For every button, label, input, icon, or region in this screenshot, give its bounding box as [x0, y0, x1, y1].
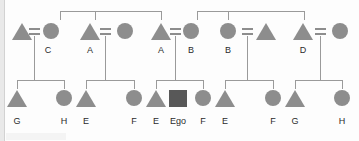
- scan-artifact: [6, 133, 66, 140]
- person-symbol-female: [332, 23, 348, 39]
- sibling-bar-3: [156, 80, 204, 81]
- person-label-E2: E: [146, 116, 166, 126]
- descent-line-3: [175, 36, 176, 80]
- top-sibling-bar-1: [60, 11, 162, 12]
- descent-line-1: [34, 36, 35, 80]
- person-symbol-female: [220, 23, 236, 39]
- sibling-drop-2b: [134, 80, 135, 89]
- person-label-H1: H: [54, 116, 74, 126]
- person-symbol-female: [126, 90, 142, 106]
- person-symbol-female: [117, 23, 133, 39]
- marriage-equals-1: [29, 28, 40, 35]
- marriage-equals-4: [242, 28, 253, 35]
- person-symbol-female: [43, 23, 59, 39]
- person-label-A1: A: [80, 45, 100, 55]
- descent-line-5: [320, 36, 321, 80]
- person-symbol-male: [215, 90, 235, 107]
- sibling-drop-5b: [342, 80, 343, 89]
- person-symbol-male: [146, 90, 166, 107]
- page-edge-strip: [0, 0, 5, 141]
- person-label-A2: A: [151, 45, 171, 55]
- marriage-equals-3: [170, 28, 181, 35]
- person-label-F3: F: [263, 116, 283, 126]
- person-label-E3: E: [215, 116, 235, 126]
- person-symbol-female: [183, 23, 199, 39]
- person-symbol-female: [265, 90, 281, 106]
- person-symbol-male: [76, 90, 96, 107]
- sibling-drop-2a: [86, 80, 87, 89]
- sibling-drop-1a: [17, 80, 18, 89]
- sibling-bar-2: [86, 80, 135, 81]
- person-label-E1: E: [76, 116, 96, 126]
- top-sibling-drop-1b: [95, 11, 96, 20]
- sibling-drop-3a: [156, 80, 157, 89]
- top-sibling-bar-2: [197, 11, 305, 12]
- top-sibling-drop-1c: [161, 11, 162, 20]
- marriage-equals-2: [100, 28, 111, 35]
- sibling-drop-5a: [295, 80, 296, 89]
- person-symbol-female: [195, 90, 211, 106]
- person-symbol-male: [151, 23, 171, 40]
- person-label-F2: F: [193, 116, 213, 126]
- person-label-C: C: [38, 45, 58, 55]
- sibling-bar-1: [17, 80, 65, 81]
- person-symbol-male: [293, 23, 313, 40]
- top-sibling-drop-1a: [60, 11, 61, 20]
- person-symbol-male: [256, 23, 276, 40]
- sibling-drop-3b: [203, 80, 204, 89]
- person-symbol-male: [7, 90, 27, 107]
- pedigree-diagram: C A A B B D G H E F E Ego F E F G H: [0, 0, 359, 141]
- descent-line-2: [105, 36, 106, 80]
- person-label-B2: B: [218, 45, 238, 55]
- person-symbol-male: [285, 90, 305, 107]
- person-label-B1: B: [181, 45, 201, 55]
- top-sibling-drop-2a: [197, 11, 198, 20]
- person-symbol-female: [334, 90, 350, 106]
- sibling-drop-1b: [64, 80, 65, 89]
- descent-line-4: [247, 36, 248, 80]
- person-symbol-male: [80, 23, 100, 40]
- sibling-drop-4b: [273, 80, 274, 89]
- sibling-bar-5: [295, 80, 343, 81]
- person-symbol-ego: [169, 90, 187, 107]
- person-label-F1: F: [124, 116, 144, 126]
- person-label-G2: G: [285, 116, 305, 126]
- person-label-G1: G: [7, 116, 27, 126]
- person-label-H2: H: [332, 116, 352, 126]
- person-label-ego: Ego: [167, 116, 189, 126]
- marriage-equals-5: [315, 28, 326, 35]
- sibling-bar-4: [225, 80, 274, 81]
- top-sibling-drop-2b: [228, 11, 229, 20]
- person-label-D: D: [293, 45, 313, 55]
- top-sibling-drop-2c: [304, 11, 305, 20]
- sibling-drop-4a: [225, 80, 226, 89]
- person-symbol-female: [56, 90, 72, 106]
